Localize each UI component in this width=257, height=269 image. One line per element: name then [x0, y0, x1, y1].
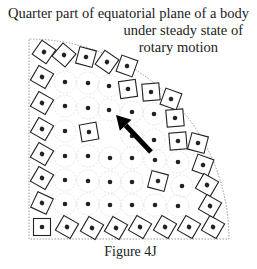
interior-particle: [86, 106, 91, 111]
boundary-square: [30, 117, 53, 140]
boundary-square: [188, 133, 209, 154]
boundary-elements-layer: [30, 40, 224, 239]
interior-particle: [108, 180, 113, 185]
interior-particle: [108, 203, 113, 208]
interior-particle: [107, 108, 112, 113]
interior-particle: [108, 156, 113, 161]
boundary-square: [177, 215, 200, 238]
boundary-square: [142, 83, 160, 101]
interior-particle: [130, 203, 135, 208]
interior-particle: [86, 202, 91, 207]
quarter-plane-diagram: [0, 0, 257, 269]
boundary-square: [31, 192, 54, 215]
boundary-square: [116, 55, 138, 77]
interior-particle: [63, 154, 68, 159]
boundary-square: [95, 50, 119, 74]
interior-particle: [63, 202, 68, 207]
interior-particle: [152, 112, 157, 117]
boundary-square: [34, 219, 51, 236]
boundary-square: [148, 171, 169, 192]
boundary-square: [169, 132, 187, 150]
boundary-square: [30, 91, 53, 114]
interior-particle: [86, 81, 91, 86]
interior-particle: [63, 178, 68, 183]
interior-particle: [180, 184, 185, 189]
interior-particle: [107, 84, 112, 89]
boundary-square: [76, 47, 97, 68]
interior-particle: [176, 160, 181, 165]
boundary-square: [80, 216, 103, 239]
interior-particle: [130, 110, 135, 115]
interior-particle: [152, 138, 157, 143]
interior-particle: [86, 179, 91, 184]
boundary-square: [195, 173, 218, 196]
interior-particle: [63, 129, 68, 134]
boundary-square: [153, 215, 176, 238]
boundary-square: [30, 142, 53, 165]
boundary-square: [32, 40, 56, 64]
boundary-square: [201, 215, 224, 238]
boundary-square: [192, 154, 214, 176]
interior-particle: [63, 80, 68, 85]
boundary-square: [118, 79, 137, 98]
boundary-square: [198, 194, 221, 217]
boundary-square: [79, 122, 99, 142]
interior-particle: [153, 203, 158, 208]
interior-particle: [153, 158, 158, 163]
boundary-square: [104, 216, 127, 239]
interior-particle: [63, 104, 68, 109]
boundary-square: [55, 215, 78, 238]
interior-particle: [86, 154, 91, 159]
boundary-square: [128, 215, 151, 238]
interior-particle: [130, 156, 135, 161]
figure-caption: Figure 4J: [0, 244, 257, 260]
interior-particle: [130, 180, 135, 185]
interior-particle: [176, 204, 181, 209]
boundary-square: [52, 43, 76, 67]
boundary-square: [166, 109, 184, 127]
boundary-square: [30, 65, 53, 88]
boundary-square: [30, 166, 53, 189]
